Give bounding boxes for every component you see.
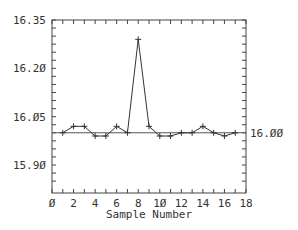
data-series [60,36,238,139]
plot-frame [52,20,246,193]
x-axis-label: Sample Number [106,208,192,221]
x-tick-label: 4 [92,197,99,210]
y-axis-ticks: 16.3516.2Ø16.Ø515.9Ø [13,14,246,181]
y-tick-label: 16.2Ø [13,62,46,75]
y-tick-label: 16.Ø5 [13,111,46,124]
x-tick-label: 14 [196,197,210,210]
y-tick-label: 15.9Ø [13,159,46,172]
x-tick-label: Ø [49,197,56,210]
control-chart: 16.3516.2Ø16.Ø515.9Ø Ø24681Ø12141618 Sam… [0,0,298,230]
center-line-label: 16.ØØ [250,127,283,140]
x-axis-ticks: Ø24681Ø12141618 [49,20,253,210]
x-tick-label: 16 [218,197,231,210]
y-tick-label: 16.35 [13,14,46,27]
x-tick-label: 18 [239,197,252,210]
x-tick-label: 2 [70,197,77,210]
